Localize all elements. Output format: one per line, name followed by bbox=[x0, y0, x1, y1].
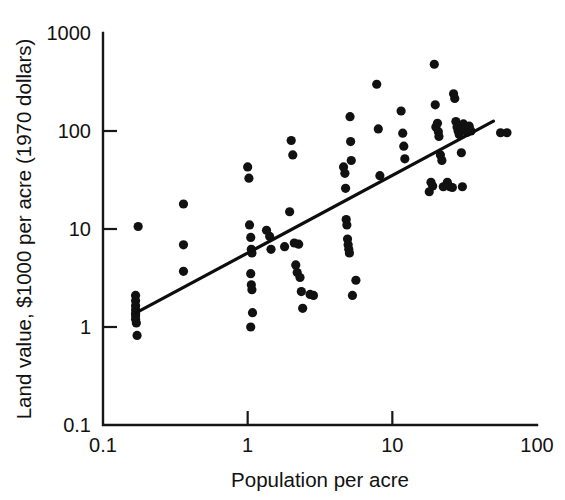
y-axis-ticks bbox=[103, 131, 117, 327]
data-point bbox=[342, 220, 351, 229]
data-point bbox=[430, 60, 439, 69]
y-tick-label-10: 10 bbox=[69, 218, 91, 240]
data-point bbox=[398, 129, 407, 138]
data-point bbox=[433, 119, 442, 128]
data-point bbox=[179, 267, 188, 276]
data-point bbox=[246, 233, 255, 242]
y-tick-label-100: 100 bbox=[58, 120, 91, 142]
data-point bbox=[266, 245, 275, 254]
data-point bbox=[132, 331, 141, 340]
data-point bbox=[245, 220, 254, 229]
data-point bbox=[297, 287, 306, 296]
data-point bbox=[351, 276, 360, 285]
data-point bbox=[246, 322, 255, 331]
y-tick-label-0.1: 0.1 bbox=[63, 414, 91, 436]
data-point bbox=[341, 184, 350, 193]
data-point bbox=[428, 181, 437, 190]
data-point bbox=[397, 106, 406, 115]
scatter-plot-figure: 0.11101001000 0.1110100 Population per a… bbox=[0, 0, 565, 500]
y-axis-tick-labels: 0.11101001000 bbox=[47, 22, 92, 436]
data-point bbox=[437, 156, 446, 165]
data-point bbox=[434, 132, 443, 141]
data-points-layer bbox=[131, 60, 512, 340]
data-point bbox=[243, 162, 252, 171]
data-point bbox=[399, 142, 408, 151]
data-point bbox=[348, 291, 357, 300]
regression-trendline bbox=[136, 121, 493, 313]
data-point bbox=[372, 80, 381, 89]
y-tick-label-1: 1 bbox=[80, 316, 91, 338]
data-point bbox=[285, 207, 294, 216]
x-tick-label-1: 1 bbox=[242, 434, 253, 456]
data-point bbox=[247, 285, 256, 294]
data-point bbox=[374, 124, 383, 133]
data-point bbox=[134, 222, 143, 231]
x-tick-label-0.1: 0.1 bbox=[89, 434, 117, 456]
data-point bbox=[295, 273, 304, 282]
data-point bbox=[244, 174, 253, 183]
data-point bbox=[345, 248, 354, 257]
plot-canvas: 0.11101001000 0.1110100 Population per a… bbox=[0, 0, 565, 500]
data-point bbox=[287, 136, 296, 145]
data-point bbox=[458, 182, 467, 191]
data-point bbox=[431, 100, 440, 109]
data-point bbox=[288, 150, 297, 159]
data-point bbox=[448, 183, 457, 192]
data-point bbox=[179, 240, 188, 249]
y-tick-label-1000: 1000 bbox=[47, 22, 92, 44]
data-point bbox=[132, 318, 141, 327]
data-point bbox=[457, 148, 466, 157]
x-axis-title: Population per acre bbox=[231, 468, 409, 491]
data-point bbox=[280, 242, 289, 251]
data-point bbox=[246, 269, 255, 278]
data-point bbox=[248, 308, 257, 317]
y-axis-title: Land value, $1000 per acre (1970 dollars… bbox=[12, 39, 35, 420]
data-point bbox=[450, 94, 459, 103]
x-tick-label-10: 10 bbox=[381, 434, 403, 456]
data-point bbox=[345, 112, 354, 121]
data-point bbox=[179, 199, 188, 208]
data-point bbox=[400, 154, 409, 163]
data-point bbox=[346, 137, 355, 146]
data-point bbox=[340, 169, 349, 178]
x-axis-ticks bbox=[248, 411, 393, 425]
data-point bbox=[309, 291, 318, 300]
x-tick-label-100: 100 bbox=[520, 434, 553, 456]
data-point bbox=[347, 156, 356, 165]
data-point bbox=[502, 128, 511, 137]
axis-frame bbox=[103, 33, 537, 425]
data-point bbox=[294, 240, 303, 249]
data-point bbox=[298, 304, 307, 313]
x-axis-tick-labels: 0.1110100 bbox=[89, 434, 554, 456]
